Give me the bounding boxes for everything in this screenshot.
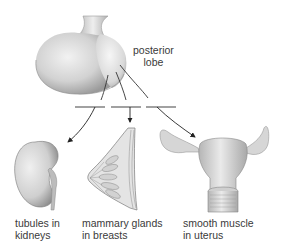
- posterior-lobe-label-line2: lobe: [133, 56, 174, 68]
- uterus-icon: [160, 126, 269, 212]
- posterior-lobe-label: posterior lobe: [133, 44, 174, 68]
- mammary-gland-icon: [88, 128, 137, 210]
- posterior-lobe-label-line1: posterior: [133, 44, 174, 56]
- breast-label: mammary glands in breasts: [82, 217, 163, 241]
- kidney-label-line1: tubules in: [15, 217, 60, 229]
- diagram-artwork: [0, 0, 283, 248]
- kidney-label-line2: kidneys: [15, 229, 60, 241]
- pituitary-gland-icon: [36, 16, 127, 94]
- diagram-canvas: posterior lobe tubules in kidneys mammar…: [0, 0, 283, 248]
- breast-label-line2: in breasts: [82, 229, 163, 241]
- kidney-label: tubules in kidneys: [15, 217, 60, 241]
- uterus-label-line2: in uterus: [183, 229, 254, 241]
- kidney-icon: [15, 141, 58, 210]
- breast-label-line1: mammary glands: [82, 217, 163, 229]
- uterus-label: smooth muscle in uterus: [183, 217, 254, 241]
- uterus-label-line1: smooth muscle: [183, 217, 254, 229]
